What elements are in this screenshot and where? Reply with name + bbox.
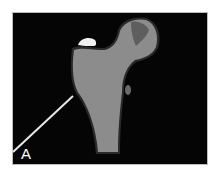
femur-diagram: [0, 0, 220, 176]
pointer-line: [13, 96, 73, 152]
lesser-trochanter: [125, 85, 131, 95]
figure-label: A: [21, 146, 31, 161]
trochanter-highlight: [78, 38, 96, 46]
